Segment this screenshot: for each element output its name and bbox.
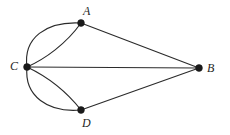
vertex-label-b: B (207, 62, 214, 74)
edge-c-d-upper (27, 67, 81, 110)
graph-canvas (0, 0, 230, 135)
edge-c-a-lower (27, 23, 81, 67)
multigraph-diagram: A B C D (0, 0, 230, 135)
vertex-label-a: A (83, 5, 90, 17)
edge-d-b (81, 68, 199, 110)
edge-c-b (27, 67, 199, 68)
vertex-dot-a (78, 20, 85, 27)
vertex-label-c: C (10, 60, 18, 72)
vertex-label-d: D (82, 117, 91, 129)
edge-c-d-lower (27, 67, 81, 110)
vertex-dot-d (78, 107, 85, 114)
edge-a-b (81, 23, 199, 68)
vertex-dot-b (196, 65, 203, 72)
edge-c-a-upper (27, 23, 81, 67)
vertex-dot-c (24, 64, 31, 71)
